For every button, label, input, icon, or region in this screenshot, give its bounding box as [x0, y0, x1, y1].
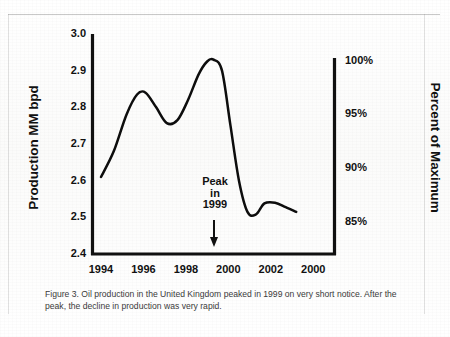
y-axis-title: Production MM bpd — [26, 68, 41, 228]
figure-3-chart: Production MM bpd Percent of Maximum 3.0… — [0, 0, 450, 337]
y-tick-label: 2.4 — [52, 247, 86, 259]
x-tick-label: 1998 — [163, 263, 209, 275]
y2-tick-label: 90% — [345, 161, 389, 173]
peak-annotation-label: Peakin1999 — [172, 176, 258, 211]
y-tick-label: 2.9 — [52, 64, 86, 76]
y2-axis-title: Percent of Maximum — [428, 53, 443, 243]
scanned-page: Production MM bpd Percent of Maximum 3.0… — [0, 0, 450, 337]
y2-tick-label: 85% — [345, 215, 389, 227]
peak-arrow-icon — [210, 220, 218, 247]
x-tick-label: 1994 — [78, 263, 124, 275]
y-tick-label: 2.8 — [52, 100, 86, 112]
y-tick-label: 2.5 — [52, 210, 86, 222]
y-tick-label: 3.0 — [52, 27, 86, 39]
x-tick-label: 2002 — [248, 263, 294, 275]
y-tick-label: 2.7 — [52, 137, 86, 149]
y2-tick-label: 100% — [345, 54, 389, 66]
x-tick-label: 1996 — [120, 263, 166, 275]
y-tick-label: 2.6 — [52, 174, 86, 186]
x-tick-label: 2000 — [290, 263, 336, 275]
figure-caption: Figure 3. Oil production in the United K… — [45, 288, 397, 313]
y2-tick-label: 95% — [345, 107, 389, 119]
x-tick-label: 2000 — [205, 263, 251, 275]
peak-annotation-line: 1999 — [172, 199, 258, 211]
peak-annotation-line: Peak — [172, 176, 258, 188]
